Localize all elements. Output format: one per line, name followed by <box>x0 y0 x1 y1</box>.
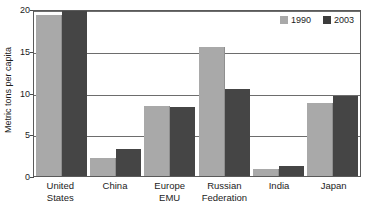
bar[interactable] <box>199 47 225 176</box>
bar[interactable] <box>90 158 116 176</box>
legend: 19902003 <box>278 14 356 26</box>
plot-area: 19902003 <box>33 10 361 177</box>
y-tick-mark <box>30 177 34 178</box>
y-axis-title-text: Metric tons per capita <box>3 47 13 133</box>
x-axis-label-line: Russian <box>197 180 252 192</box>
bar[interactable] <box>116 149 141 176</box>
x-axis-label-line: Europe <box>142 180 197 192</box>
y-tick-label: 20 <box>20 5 30 15</box>
bar-chart: Metric tons per capita 05101520 19902003… <box>0 0 366 223</box>
legend-label: 1990 <box>291 15 311 25</box>
bar-group <box>306 11 360 176</box>
bar[interactable] <box>307 103 333 176</box>
bar-group <box>88 11 142 176</box>
x-axis-label-line: India <box>252 180 307 192</box>
x-axis-label: India <box>252 180 307 204</box>
bar[interactable] <box>333 96 358 176</box>
legend-entry[interactable]: 1990 <box>280 15 311 25</box>
x-axis-label-line: China <box>88 180 143 192</box>
legend-swatch-icon <box>323 16 331 24</box>
x-axis-label-line: States <box>33 192 88 204</box>
x-axis-label: China <box>88 180 143 204</box>
bar-group <box>251 11 305 176</box>
y-tick-label: 10 <box>20 89 30 99</box>
bar[interactable] <box>253 169 279 176</box>
bar-group <box>143 11 197 176</box>
x-axis-label: EuropeEMU <box>142 180 197 204</box>
bar[interactable] <box>144 106 170 176</box>
bar[interactable] <box>36 15 62 176</box>
x-axis-label: RussianFederation <box>197 180 252 204</box>
bar[interactable] <box>279 166 304 176</box>
x-axis-label-line: Japan <box>306 180 361 192</box>
x-axis-label-line: EMU <box>142 192 197 204</box>
legend-swatch-icon <box>280 16 288 24</box>
bar-group <box>197 11 251 176</box>
y-tick-label: 15 <box>20 47 30 57</box>
bar-group <box>34 11 88 176</box>
x-axis-label: Japan <box>306 180 361 204</box>
bar[interactable] <box>62 10 87 176</box>
bar[interactable] <box>225 89 250 176</box>
legend-label: 2003 <box>334 15 354 25</box>
y-axis-ticks: 05101520 <box>14 10 30 177</box>
x-axis-label-line: Federation <box>197 192 252 204</box>
bar[interactable] <box>170 107 195 176</box>
bars-layer <box>34 11 360 176</box>
x-axis-label-line: United <box>33 180 88 192</box>
x-axis-labels: UnitedStatesChinaEuropeEMURussianFederat… <box>33 180 361 204</box>
x-axis-label: UnitedStates <box>33 180 88 204</box>
legend-entry[interactable]: 2003 <box>323 15 354 25</box>
